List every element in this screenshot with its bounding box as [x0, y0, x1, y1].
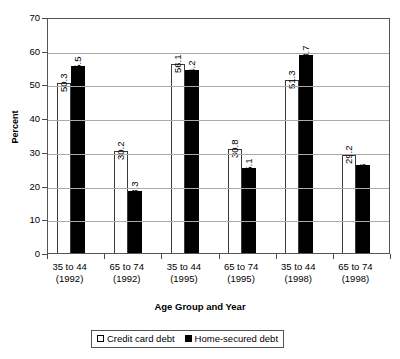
x-axis-category-label: 35 to 44(1998): [266, 261, 330, 285]
y-axis-tick-mark: [42, 18, 47, 19]
bar: [114, 151, 128, 253]
y-axis-tick-mark: [42, 85, 47, 86]
x-axis-title: Age Group and Year: [0, 301, 400, 312]
y-axis-tick-label: 0: [8, 249, 40, 259]
legend-swatch-dark: [185, 335, 192, 342]
bar-value-label: 58.7: [301, 46, 311, 65]
bar-value-label: 18.3: [130, 182, 140, 201]
y-axis-tick-label: 50: [8, 80, 40, 90]
x-axis-category-label-line: (1992): [95, 273, 159, 285]
gridline: [48, 86, 389, 87]
bar: [171, 64, 185, 253]
legend-label: Home-secured debt: [195, 333, 278, 344]
y-axis-tick-label: 20: [8, 182, 40, 192]
y-axis-tick-label: 70: [8, 13, 40, 23]
legend-label: Credit card debt: [107, 333, 175, 344]
bar-value-label: 30.2: [116, 142, 126, 161]
x-axis-category-label: 35 to 44(1992): [38, 261, 102, 285]
bar-value-label: 55.5: [73, 56, 83, 75]
x-axis-category-label-line: 65 to 74: [209, 261, 273, 273]
bar: [57, 83, 71, 253]
legend-item[interactable]: Home-secured debt: [185, 333, 278, 344]
plot-area: 50.355.530.218.356.154.230.825.151.358.7…: [47, 18, 390, 254]
y-axis-tick-label: 30: [8, 148, 40, 158]
bar: [71, 66, 85, 253]
x-axis-category-label-line: (1995): [209, 273, 273, 285]
y-axis-tick-mark: [42, 220, 47, 221]
chart-legend: Credit card debtHome-secured debt: [91, 330, 284, 348]
bar-value-label: 56.1: [173, 54, 183, 73]
legend-swatch-light: [97, 335, 104, 342]
bar-chart: Percent 010203040506070 50.355.530.218.3…: [0, 0, 400, 359]
x-axis-category-label: 65 to 74(1995): [209, 261, 273, 285]
y-axis-tick-mark: [42, 119, 47, 120]
y-axis-tick-mark: [42, 153, 47, 154]
bar-value-label: 30.8: [230, 140, 240, 159]
gridline: [48, 53, 389, 54]
x-axis-tick-mark: [333, 254, 334, 259]
x-axis-category-label-line: (1998): [266, 273, 330, 285]
x-axis-category-label-line: 35 to 44: [266, 261, 330, 273]
x-axis-category-label-line: (1998): [323, 273, 387, 285]
bar: [228, 149, 242, 253]
x-axis-category-label-line: (1992): [38, 273, 102, 285]
bar-value-label: 25.1: [244, 159, 254, 178]
y-axis-tick-label: 10: [8, 215, 40, 225]
y-axis-tick-mark: [42, 52, 47, 53]
bars-layer: 50.355.530.218.356.154.230.825.151.358.7…: [48, 19, 389, 253]
gridline: [48, 188, 389, 189]
x-axis-category-label-line: 65 to 74: [323, 261, 387, 273]
x-axis-category-label-line: (1995): [152, 273, 216, 285]
bar: [356, 165, 370, 253]
y-axis-tick-label: 60: [8, 47, 40, 57]
bar-value-label: 50.3: [59, 74, 69, 93]
y-axis-tick-label: 40: [8, 114, 40, 124]
x-axis-category-label-line: 35 to 44: [152, 261, 216, 273]
gridline: [48, 120, 389, 121]
bar-value-label: 26: [358, 164, 368, 175]
x-axis-tick-mark: [104, 254, 105, 259]
x-axis-category-label: 35 to 44(1995): [152, 261, 216, 285]
x-axis-tick-mark: [390, 254, 391, 259]
bar-value-label: 54.2: [187, 61, 197, 80]
bar: [242, 168, 256, 253]
legend-item[interactable]: Credit card debt: [97, 333, 175, 344]
gridline: [48, 154, 389, 155]
bar: [342, 155, 356, 253]
bar: [185, 70, 199, 253]
bar: [285, 80, 299, 253]
gridline: [48, 221, 389, 222]
x-axis-category-label-line: 65 to 74: [95, 261, 159, 273]
x-axis-tick-mark: [219, 254, 220, 259]
y-axis-tick-mark: [42, 187, 47, 188]
x-axis-category-label: 65 to 74(1998): [323, 261, 387, 285]
x-axis-category-label-line: 35 to 44: [38, 261, 102, 273]
x-axis-tick-mark: [47, 254, 48, 259]
x-axis-tick-mark: [161, 254, 162, 259]
x-axis-tick-mark: [276, 254, 277, 259]
x-axis-category-label: 65 to 74(1992): [95, 261, 159, 285]
y-axis-tick-labels: 010203040506070: [8, 18, 40, 254]
